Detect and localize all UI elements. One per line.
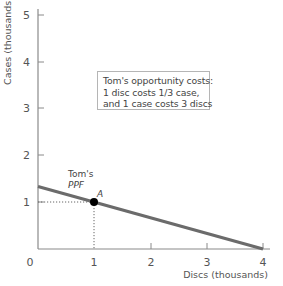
x-tick-label-3: 3 (204, 256, 211, 269)
x-tick-label-1: 1 (91, 256, 98, 269)
y-tick-label-4: 4 (23, 56, 30, 69)
ppf-label-line1: Tom's (67, 169, 94, 179)
y-tick-label-2: 2 (23, 149, 30, 162)
ppf-chart: 5 4 3 2 1 0 1 2 3 4 Discs (thousands) Ca… (0, 0, 283, 286)
x-tick-label-4: 4 (260, 256, 267, 269)
note-line-2: 1 disc costs 1/3 case, (103, 87, 209, 99)
y-tick-label-1: 1 (23, 196, 30, 209)
origin-label: 0 (27, 256, 34, 269)
ppf-line (38, 187, 263, 250)
y-axis-title: Cases (thousands) (2, 0, 13, 85)
point-a-label: A (96, 189, 103, 199)
y-tick-label-5: 5 (23, 9, 30, 22)
x-tick-label-2: 2 (148, 256, 155, 269)
y-tick-label-3: 3 (23, 102, 30, 115)
y-ticks (38, 15, 44, 202)
point-a (90, 198, 98, 206)
note-line-1: Tom's opportunity costs: (103, 75, 209, 87)
note-line-3: and 1 case costs 3 discs (103, 98, 209, 110)
opportunity-cost-note: Tom's opportunity costs: 1 disc costs 1/… (97, 71, 210, 110)
x-axis-title: Discs (thousands) (183, 269, 268, 280)
ppf-label-line2: PPF (68, 180, 85, 190)
